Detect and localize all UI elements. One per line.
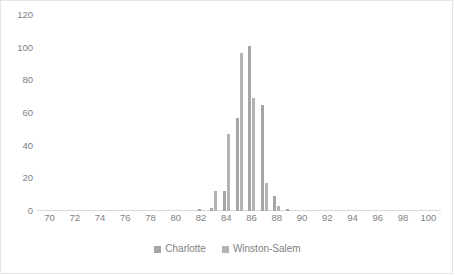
bar: [240, 53, 243, 211]
x-axis-tick-label: 78: [139, 213, 163, 223]
x-axis-tick-label: 84: [214, 213, 238, 223]
bar: [210, 208, 213, 211]
legend-item-charlotte[interactable]: Charlotte: [154, 244, 206, 254]
x-axis-tick-label: 80: [164, 213, 188, 223]
y-axis-tick-label: 120: [5, 10, 33, 20]
legend-label: Charlotte: [165, 244, 206, 254]
bar: [236, 118, 239, 211]
x-axis-tick-label: 100: [416, 213, 440, 223]
y-axis-tick-label: 60: [5, 108, 33, 118]
bar: [261, 105, 264, 211]
y-axis: 020406080100120: [1, 15, 33, 211]
x-axis-tick-label: 92: [315, 213, 339, 223]
legend-swatch-icon: [154, 246, 161, 253]
x-axis-tick-label: 98: [391, 213, 415, 223]
legend-swatch-icon: [222, 246, 229, 253]
x-axis-tick-label: 88: [265, 213, 289, 223]
bar: [248, 46, 251, 211]
x-axis-tick-label: 72: [63, 213, 87, 223]
x-axis-tick-label: 70: [38, 213, 62, 223]
bar: [286, 209, 289, 211]
x-axis-tick-label: 82: [189, 213, 213, 223]
y-axis-tick-label: 20: [5, 174, 33, 184]
plot-area: [37, 15, 441, 211]
legend-item-winston-salem[interactable]: Winston-Salem: [222, 244, 301, 254]
y-axis-tick-label: 0: [5, 206, 33, 216]
y-axis-tick-label: 100: [5, 43, 33, 53]
x-axis-tick-label: 94: [341, 213, 365, 223]
bar: [198, 209, 201, 211]
bar: [277, 206, 280, 211]
chart-container: 020406080100120 707274767880828486889092…: [0, 0, 453, 274]
x-axis: 707274767880828486889092949698100: [37, 213, 441, 229]
x-axis-tick-label: 74: [88, 213, 112, 223]
x-axis-tick-label: 86: [240, 213, 264, 223]
chart-legend: CharlotteWinston-Salem: [1, 244, 454, 254]
legend-label: Winston-Salem: [233, 244, 301, 254]
y-axis-tick-label: 80: [5, 76, 33, 86]
bar: [214, 191, 217, 211]
bar: [265, 183, 268, 211]
bar: [223, 191, 226, 211]
bar: [273, 196, 276, 211]
x-axis-tick-label: 76: [113, 213, 137, 223]
x-axis-tick-label: 96: [366, 213, 390, 223]
bar: [227, 134, 230, 211]
bar: [252, 98, 255, 211]
x-axis-tick-label: 90: [290, 213, 314, 223]
y-axis-tick-label: 40: [5, 141, 33, 151]
